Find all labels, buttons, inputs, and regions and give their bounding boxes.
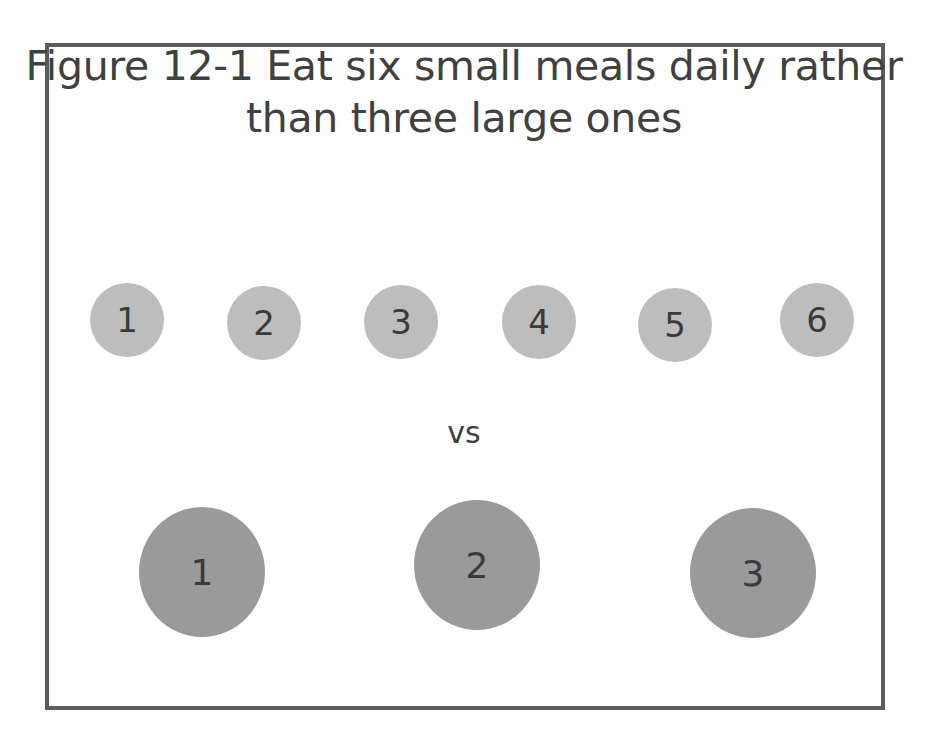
- vs-label: vs: [0, 415, 928, 450]
- small-meal-circle-3: 3: [364, 285, 438, 359]
- large-meal-circle-3: 3: [690, 508, 816, 638]
- small-meal-label: 2: [253, 303, 275, 343]
- small-meal-label: 1: [116, 300, 138, 340]
- large-meal-circle-2: 2: [414, 500, 540, 630]
- small-meal-circle-1: 1: [90, 283, 164, 357]
- small-meal-circle-5: 5: [638, 288, 712, 362]
- small-meal-circle-2: 2: [227, 286, 301, 360]
- small-meal-circle-6: 6: [780, 283, 854, 357]
- small-meal-label: 4: [528, 302, 550, 342]
- small-meal-label: 5: [664, 305, 686, 345]
- large-meal-label: 2: [466, 545, 489, 586]
- figure-title: Figure 12-1 Eat six small meals daily ra…: [0, 40, 928, 144]
- small-meal-label: 6: [806, 300, 828, 340]
- large-meal-label: 3: [742, 553, 765, 594]
- small-meal-circle-4: 4: [502, 285, 576, 359]
- small-meal-label: 3: [390, 302, 412, 342]
- large-meal-circle-1: 1: [139, 507, 265, 637]
- title-line-2: than three large ones: [0, 92, 928, 144]
- large-meal-label: 1: [191, 552, 214, 593]
- title-line-1: Figure 12-1 Eat six small meals daily ra…: [0, 40, 928, 92]
